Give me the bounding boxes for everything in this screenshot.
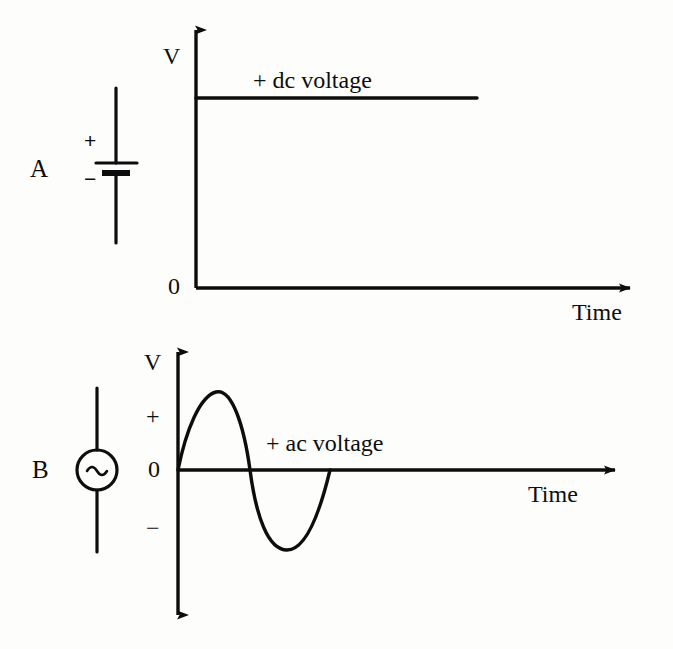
panel-b-label: B xyxy=(32,457,49,482)
ac-tilde-glyph xyxy=(87,467,107,475)
panel-b-y-axis-label: V xyxy=(144,350,161,374)
battery-symbol xyxy=(96,88,137,243)
panel-b-negative-label: − xyxy=(146,516,160,540)
panel-a-x-axis-label: Time xyxy=(572,300,622,324)
panel-a-label: A xyxy=(30,156,48,181)
panel-b-ac: B V + 0 − + ac voltage Time xyxy=(0,330,673,649)
panel-a-graphics xyxy=(0,0,673,330)
ac-source-symbol xyxy=(77,388,117,552)
panel-a-origin-label: 0 xyxy=(168,274,180,298)
panel-b-x-axis-label: Time xyxy=(528,482,578,506)
ac-voltage-annotation: + ac voltage xyxy=(266,431,383,455)
panel-a-dc: A + − V 0 + dc voltage Time xyxy=(0,0,673,330)
dc-voltage-annotation: + dc voltage xyxy=(253,68,372,92)
battery-minus-sign: − xyxy=(84,168,96,189)
panel-b-positive-label: + xyxy=(146,404,160,428)
figure-root: A + − V 0 + dc voltage Time xyxy=(0,0,673,649)
battery-plus-sign: + xyxy=(84,130,96,151)
panel-b-origin-label: 0 xyxy=(148,457,160,481)
panel-a-y-axis-label: V xyxy=(163,44,180,68)
